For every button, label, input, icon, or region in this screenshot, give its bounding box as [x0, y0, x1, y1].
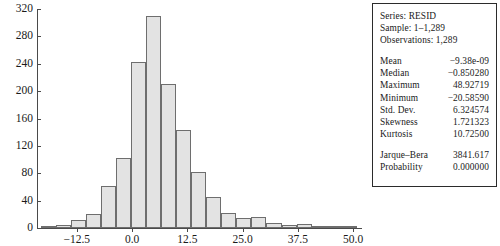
x-axis-tick — [77, 228, 78, 232]
x-axis-tick — [132, 228, 133, 232]
histogram-bar — [86, 214, 101, 228]
statistic-value: −0.850280 — [448, 67, 489, 79]
statistic-row: Mean−9.38e-09 — [380, 55, 489, 67]
histogram-bar — [251, 217, 266, 228]
statistics-header: Series: RESIDSample: 1–1,289Observations… — [380, 10, 489, 46]
histogram-bar — [131, 62, 146, 228]
histogram-bar — [161, 84, 176, 228]
statistic-row: Skewness1.721323 — [380, 116, 489, 128]
plot-area — [37, 9, 362, 228]
histogram-bar — [41, 226, 56, 228]
histogram-bar — [327, 226, 342, 228]
histogram-bar — [342, 226, 357, 228]
statistic-value: 0.000000 — [453, 161, 489, 173]
y-axis-tick-label: 160 — [0, 113, 33, 125]
statistic-label: Median — [380, 67, 409, 79]
y-axis-label-box: 240 — [0, 58, 33, 70]
histogram-bar — [71, 220, 86, 228]
statistic-value: 3841.617 — [453, 149, 489, 161]
statistic-row: Maximum48.92719 — [380, 79, 489, 91]
histogram-bar — [116, 158, 131, 228]
statistic-row: Median−0.850280 — [380, 67, 489, 79]
y-axis-tick-label: 320 — [0, 3, 33, 15]
statistic-label: Minimum — [380, 92, 418, 104]
x-axis-tick — [187, 228, 188, 232]
statistics-header-line: Series: RESID — [380, 10, 489, 22]
statistics-spacer-1 — [380, 46, 489, 55]
y-axis-label-box: 320 — [0, 3, 33, 15]
histogram-bar — [221, 213, 236, 228]
x-axis-tick — [298, 228, 299, 232]
x-axis-tick — [353, 228, 354, 232]
histogram-bar — [176, 130, 191, 228]
histogram-bar — [236, 218, 251, 228]
y-axis-label-box: 280 — [0, 30, 33, 42]
statistic-value: 6.324574 — [453, 104, 489, 116]
y-axis-tick-label: 280 — [0, 30, 33, 42]
histogram-figure: 04080120160200240280320 −12.50.012.525.0… — [0, 0, 500, 246]
x-axis-tick-label: 50.0 — [343, 233, 363, 245]
statistic-value: 10.72500 — [453, 128, 489, 140]
x-axis-tick-label: 0.0 — [125, 233, 139, 245]
histogram-bar — [282, 225, 297, 228]
statistic-label: Std. Dev. — [380, 104, 415, 116]
x-axis-tick-label: −12.5 — [63, 233, 90, 245]
histogram-bar — [56, 225, 71, 228]
statistic-label: Skewness — [380, 116, 418, 128]
y-axis-label-box: 0 — [0, 222, 33, 234]
statistics-spacer-2 — [380, 140, 489, 149]
histogram-bar — [146, 16, 161, 228]
statistics-panel: Series: RESIDSample: 1–1,289Observations… — [372, 3, 497, 187]
y-axis-tick-label: 80 — [0, 167, 33, 179]
y-axis-label-box: 40 — [0, 195, 33, 207]
histogram-bar — [206, 197, 221, 228]
statistics-test-rows: Jarque–Bera3841.617Probability0.000000 — [380, 149, 489, 173]
y-axis-tick-label: 120 — [0, 140, 33, 152]
statistics-rows: Mean−9.38e-09Median−0.850280Maximum48.92… — [380, 55, 489, 140]
statistic-label: Maximum — [380, 79, 420, 91]
statistic-value: 48.92719 — [453, 79, 489, 91]
y-axis-tick-label: 240 — [0, 58, 33, 70]
statistic-value: −20.58590 — [448, 92, 489, 104]
statistics-header-line: Observations: 1,289 — [380, 34, 489, 46]
y-axis-tick-label: 0 — [0, 222, 33, 234]
statistic-label: Jarque–Bera — [380, 149, 428, 161]
y-axis-label-box: 120 — [0, 140, 33, 152]
histogram-bar — [191, 172, 206, 228]
histogram-chart: 04080120160200240280320 −12.50.012.525.0… — [0, 0, 372, 246]
statistic-label: Probability — [380, 161, 423, 173]
histogram-bar — [266, 223, 281, 228]
y-axis-label-box: 200 — [0, 85, 33, 97]
x-axis-tick-label: 37.5 — [288, 233, 308, 245]
statistic-row: Kurtosis10.72500 — [380, 128, 489, 140]
statistic-test-row: Jarque–Bera3841.617 — [380, 149, 489, 161]
statistic-row: Minimum−20.58590 — [380, 92, 489, 104]
statistic-row: Std. Dev.6.324574 — [380, 104, 489, 116]
x-axis-tick-label: 12.5 — [177, 233, 197, 245]
y-axis-label-box: 80 — [0, 167, 33, 179]
x-axis-tick — [243, 228, 244, 232]
histogram-bar — [297, 224, 312, 228]
x-axis-line — [37, 228, 362, 229]
y-axis-label-box: 160 — [0, 113, 33, 125]
y-axis-tick-label: 40 — [0, 195, 33, 207]
statistic-label: Mean — [380, 55, 402, 67]
statistic-value: −9.38e-09 — [450, 55, 489, 67]
x-axis-tick-label: 25.0 — [233, 233, 253, 245]
y-axis-tick — [37, 228, 41, 229]
statistic-label: Kurtosis — [380, 128, 413, 140]
statistic-value: 1.721323 — [453, 116, 489, 128]
histogram-bar — [101, 186, 116, 228]
statistics-header-line: Sample: 1–1,289 — [380, 22, 489, 34]
statistic-test-row: Probability0.000000 — [380, 161, 489, 173]
y-axis-tick-label: 200 — [0, 85, 33, 97]
histogram-bar — [312, 226, 327, 228]
